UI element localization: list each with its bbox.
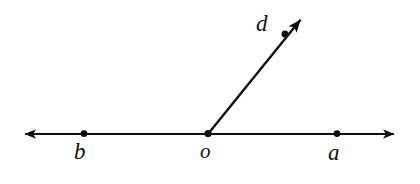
point-label-o: o [200,141,211,162]
point-dot-o [204,130,211,137]
point-dot-b [81,130,88,137]
point-dot-a [334,130,341,137]
point-label-a: a [328,141,340,164]
geometry-diagram: b o a d [0,0,420,184]
point-label-b: b [74,140,86,163]
point-label-d: d [256,12,268,35]
point-dot-d [282,31,289,38]
